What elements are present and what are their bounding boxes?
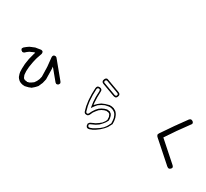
hiragana-ra-shape bbox=[82, 76, 126, 132]
glyph-ku: く bbox=[154, 116, 198, 172]
captcha-canvas: ひ ら く bbox=[0, 0, 206, 192]
hiragana-hi-shape bbox=[14, 44, 64, 96]
hiragana-ku-shape bbox=[154, 116, 198, 172]
glyph-ra: ら bbox=[82, 76, 126, 132]
glyph-hi: ひ bbox=[14, 44, 64, 96]
